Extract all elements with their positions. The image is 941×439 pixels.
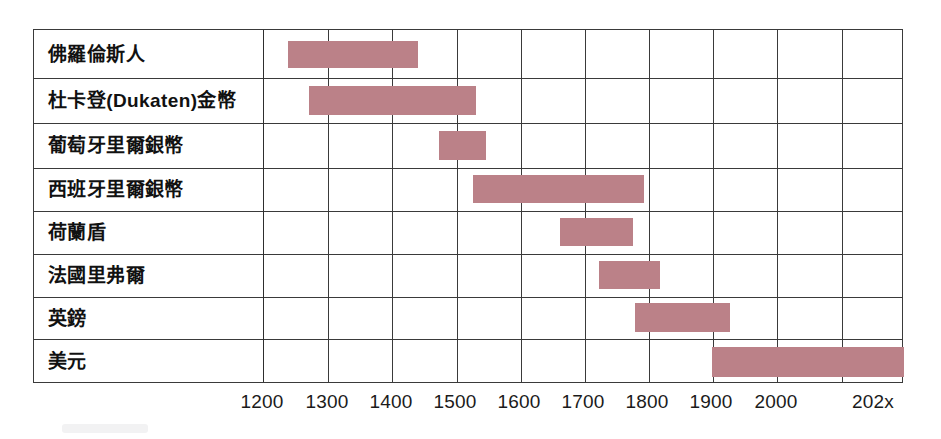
range-bar-us-dollar [712, 347, 904, 377]
row-label-portuguese-real: 葡萄牙里爾銀幣 [34, 123, 263, 168]
x-tick-1300: 1300 [297, 391, 357, 413]
x-tick-1900: 1900 [681, 391, 741, 413]
range-bar-portuguese-real [439, 131, 486, 160]
gridline-1700 [585, 30, 586, 382]
row-label-us-dollar: 美元 [34, 339, 263, 384]
x-tick-2000: 2000 [746, 391, 806, 413]
range-bar-french-livre [599, 261, 660, 289]
scan-artifact [62, 424, 148, 433]
gridline-1400 [392, 30, 393, 382]
x-tick-1800: 1800 [617, 391, 677, 413]
gridline-2000 [777, 30, 778, 382]
row-label-dukaten: 杜卡登(Dukaten)金幣 [34, 78, 263, 123]
range-bar-dukaten [309, 86, 476, 115]
gridline-1500 [457, 30, 458, 382]
x-tick-1600: 1600 [489, 391, 549, 413]
x-tick-1700: 1700 [553, 391, 613, 413]
row-label-florentine: 佛羅倫斯人 [34, 30, 263, 78]
gridline-1600 [521, 30, 522, 382]
range-bar-spanish-real [473, 175, 644, 203]
gridline-1300 [328, 30, 329, 382]
label-column-separator [263, 30, 264, 382]
range-bar-dutch-guilder [560, 218, 633, 246]
currency-timeline-chart: 佛羅倫斯人 杜卡登(Dukaten)金幣 葡萄牙里爾銀幣 西班牙里爾銀幣 荷蘭盾… [0, 0, 941, 439]
range-bar-florentine [288, 41, 418, 68]
x-tick-202x: 202x [843, 391, 903, 413]
row-label-spanish-real: 西班牙里爾銀幣 [34, 168, 263, 211]
chart-grid-frame: 佛羅倫斯人 杜卡登(Dukaten)金幣 葡萄牙里爾銀幣 西班牙里爾銀幣 荷蘭盾… [33, 29, 903, 383]
range-bar-british-pound [635, 303, 730, 332]
row-label-french-livre: 法國里弗爾 [34, 254, 263, 297]
x-tick-1500: 1500 [425, 391, 485, 413]
x-tick-1400: 1400 [361, 391, 421, 413]
row-label-dutch-guilder: 荷蘭盾 [34, 211, 263, 254]
x-tick-1200: 1200 [232, 391, 292, 413]
gridline-202x [842, 30, 843, 382]
row-label-british-pound: 英鎊 [34, 297, 263, 339]
